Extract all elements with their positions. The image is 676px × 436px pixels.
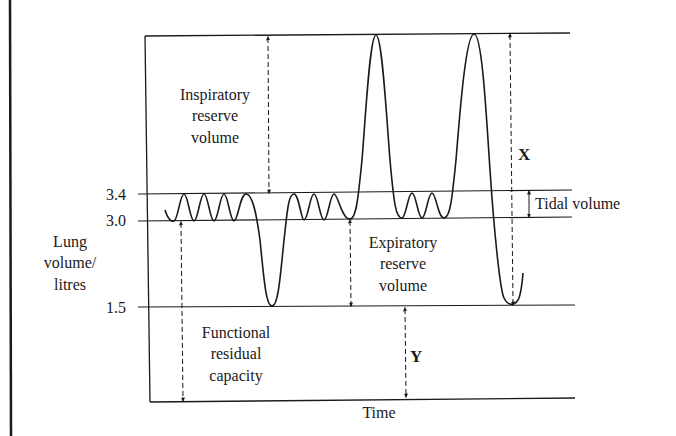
frc-label: Functional residual capacity [202, 324, 271, 385]
y-label: Y [410, 347, 422, 366]
line-3-0 [138, 217, 572, 221]
svg-text:Lung: Lung [53, 233, 87, 251]
x-arrow [510, 35, 513, 304]
y-axis-label: Lung volume/ litres [44, 233, 97, 293]
breathing-curve [165, 34, 523, 306]
erv-label: Expiratory reserve volume [369, 234, 437, 294]
svg-text:Functional: Functional [202, 324, 271, 341]
svg-text:residual: residual [211, 345, 262, 362]
svg-text:reserve: reserve [192, 107, 238, 124]
tick-3-4: 3.4 [106, 186, 126, 203]
svg-text:volume/: volume/ [44, 254, 97, 271]
page-border-left [10, 0, 11, 436]
x-label: X [518, 145, 531, 164]
tick-1-5: 1.5 [106, 299, 126, 316]
svg-text:volume: volume [379, 277, 427, 294]
frc-arrow [181, 223, 183, 400]
erv-arrow [350, 221, 351, 305]
svg-text:litres: litres [54, 276, 86, 293]
line-1-5 [138, 305, 575, 307]
tidal-volume-label: Tidal volume [535, 195, 620, 212]
irv-label: Inspiratory reserve volume [180, 86, 250, 146]
irv-arrow [268, 38, 269, 192]
svg-text:volume: volume [191, 129, 239, 146]
x-axis-label: Time [362, 404, 395, 421]
y-arrow [405, 309, 406, 396]
tick-3-0: 3.0 [106, 212, 126, 229]
svg-text:Inspiratory: Inspiratory [180, 86, 250, 104]
svg-text:Expiratory: Expiratory [369, 234, 437, 252]
line-3-4 [138, 190, 572, 194]
svg-text:capacity: capacity [209, 367, 262, 385]
lung-volume-diagram: 3.4 3.0 1.5 Lung volume/ litres Inspirat… [0, 0, 676, 436]
svg-text:reserve: reserve [380, 255, 426, 272]
